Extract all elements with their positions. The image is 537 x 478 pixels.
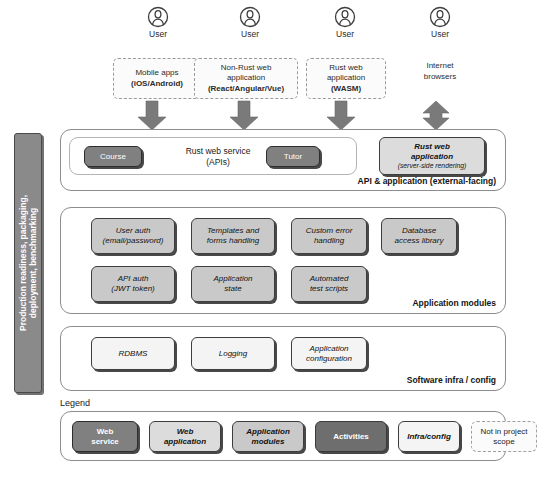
module-automated-test-scripts-line-1: Automated (310, 274, 349, 284)
module-api-auth-line-1: API auth (118, 274, 149, 284)
layer-label-application-modules: Application modules (412, 298, 496, 308)
client-line-2: browsers (405, 71, 475, 82)
legend-item-activities: Activities (315, 421, 387, 452)
sidebar-production-readiness: Production readiness, packaging, deploym… (14, 133, 42, 393)
legend-item-web-service-line-2: service (91, 437, 119, 447)
module-application-state-line-2: state (224, 284, 241, 294)
infra-logging-line-1: Logging (219, 349, 247, 359)
client-column-rust-web-app-wasm: User (310, 6, 380, 40)
client-text-internet-browsers: Internet browsers (405, 60, 475, 82)
client-line-2: application (227, 73, 265, 84)
module-automated-test-scripts-line-2: test scripts (310, 284, 348, 294)
legend-item-application-modules: Application modules (232, 421, 304, 452)
rust-web-application-ssr[interactable]: Rust web application (server-side render… (379, 137, 485, 175)
module-user-auth-line-1: User auth (116, 226, 151, 236)
rust-web-service-title-line-1: Rust web service (158, 146, 278, 157)
legend-item-web-application-line-1: Web (177, 427, 194, 437)
sidebar-label-line-2: deployment, benchmarking (28, 208, 38, 319)
user-icon (215, 6, 285, 28)
client-line-1: Rust web (329, 63, 362, 74)
module-templates-forms-line-1: Templates and (207, 226, 259, 236)
rust-web-application-note: (server-side rendering) (398, 162, 467, 171)
infra-rdbms-line-1: RDBMS (119, 349, 148, 359)
user-label: User (215, 29, 285, 40)
user-label: User (310, 29, 380, 40)
legend-item-application-modules-line-1: Application (246, 427, 290, 437)
legend-item-activities-line-1: Activities (333, 432, 369, 442)
client-box-mobile-apps[interactable]: Mobile apps (iOS/Android) (113, 58, 201, 99)
client-box-rust-web-app-wasm[interactable]: Rust web application (WASM) (306, 58, 386, 99)
rust-web-service-title-line-2: (APIs) (158, 157, 278, 168)
activity-tutor[interactable]: Tutor (266, 146, 320, 167)
user-label: User (123, 29, 193, 40)
infra-application-configuration-line-2: configuration (306, 354, 352, 364)
legend-item-web-application-line-2: application (164, 437, 206, 447)
arrow-down-non-rust-web-app (228, 101, 270, 131)
module-templates-forms[interactable]: Templates and forms handling (191, 218, 275, 254)
legend-title: Legend (60, 398, 90, 408)
activity-course[interactable]: Course (84, 146, 142, 167)
client-line-3: (React/Angular/Vue) (208, 84, 284, 95)
user-label: User (405, 29, 475, 40)
layer-label-software-infra-config: Software infra / config (407, 375, 496, 385)
legend-item-web-service-line-1: Web (97, 427, 114, 437)
legend-item-not-in-project-scope-line-2: scope (493, 437, 514, 447)
module-database-access-library-line-1: Database (402, 226, 436, 236)
module-user-auth[interactable]: User auth (email/password) (91, 218, 175, 254)
layer-software-infra-config: RDBMS Logging Application configuration … (60, 326, 506, 391)
rust-web-application-line-1: Rust web (414, 142, 450, 152)
infra-application-configuration-line-1: Application (309, 344, 348, 354)
module-application-state-line-1: Application (213, 274, 252, 284)
module-custom-error-handling-line-2: handling (314, 236, 344, 246)
arrow-down-rust-web-app-wasm (325, 101, 367, 131)
sidebar-label-line-1: Production readiness, packaging, (18, 195, 28, 331)
legend-item-web-service: Web service (72, 421, 138, 452)
legend-item-not-in-project-scope: Not in project scope (471, 421, 537, 452)
module-templates-forms-line-2: forms handling (207, 236, 259, 246)
legend-item-application-modules-line-2: modules (252, 437, 285, 447)
client-column-non-rust-web-app: User (215, 6, 285, 40)
layer-application-modules: User auth (email/password) Templates and… (60, 207, 506, 314)
client-line-1: Non-Rust web (221, 63, 272, 74)
layer-label-api-application: API & application (external-facing) (358, 176, 496, 186)
rust-web-service-title: Rust web service (APIs) (158, 146, 278, 168)
client-line-2: (iOS/Android) (131, 79, 183, 90)
infra-logging[interactable]: Logging (191, 337, 275, 370)
rust-web-application-line-2: application (411, 152, 453, 162)
sidebar-label: Production readiness, packaging, deploym… (18, 195, 38, 331)
layer-api-application: Rust web service (APIs) Course Tutor Rus… (60, 129, 506, 191)
client-column-mobile-apps: User (123, 6, 193, 40)
module-user-auth-line-2: (email/password) (103, 236, 164, 246)
module-api-auth[interactable]: API auth (JWT token) (91, 266, 175, 302)
rust-web-service-group: Rust web service (APIs) Course Tutor (69, 137, 357, 175)
module-application-state[interactable]: Application state (191, 266, 275, 302)
client-line-2: application (327, 73, 365, 84)
activity-tutor-label: Tutor (284, 152, 302, 162)
client-line-1: Internet (405, 60, 475, 71)
module-database-access-library-line-2: access library (395, 236, 444, 246)
user-icon (310, 6, 380, 28)
legend-item-web-application: Web application (149, 421, 221, 452)
module-api-auth-line-2: (JWT token) (111, 284, 155, 294)
infra-rdbms[interactable]: RDBMS (91, 337, 175, 370)
legend-item-not-in-project-scope-line-1: Not in project (480, 427, 527, 437)
client-line-1: Mobile apps (135, 68, 178, 79)
legend-panel: Web service Web application Application … (60, 411, 506, 461)
arrow-bidirectional-internet-browsers (420, 101, 462, 131)
client-line-3: (WASM) (331, 84, 361, 95)
legend-item-infra-config: Infra/config (398, 421, 460, 452)
activity-course-label: Course (100, 152, 126, 162)
module-custom-error-handling-line-1: Custom error (306, 226, 353, 236)
module-database-access-library[interactable]: Database access library (381, 218, 457, 254)
infra-application-configuration[interactable]: Application configuration (291, 337, 367, 370)
legend-item-infra-config-line-1: Infra/config (407, 432, 451, 442)
user-icon (405, 6, 475, 28)
module-custom-error-handling[interactable]: Custom error handling (291, 218, 367, 254)
module-automated-test-scripts[interactable]: Automated test scripts (291, 266, 367, 302)
client-column-internet-browsers: User (405, 6, 475, 40)
client-box-non-rust-web-app[interactable]: Non-Rust web application (React/Angular/… (194, 58, 298, 99)
arrow-down-mobile-apps (136, 101, 178, 131)
user-icon (123, 6, 193, 28)
